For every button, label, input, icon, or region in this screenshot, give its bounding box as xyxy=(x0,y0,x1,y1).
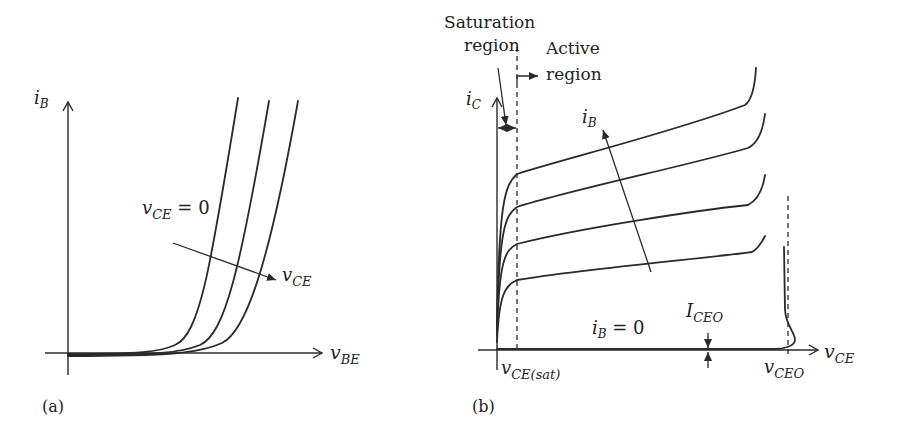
panel-b-label: (b) xyxy=(472,397,495,416)
active-region-label-line1: Active xyxy=(545,38,600,58)
bjt-characteristics-figure: iB vBE vCE = 0 vCE (a) Saturation xyxy=(0,0,897,421)
panel-b-output-characteristics: Saturation region Active region iC iB iB… xyxy=(444,12,855,416)
vce-arrow-label: vCE xyxy=(282,264,312,289)
ib-increase-arrow xyxy=(603,130,651,272)
vce-increase-arrow xyxy=(173,243,276,280)
panel-a-input-characteristics: iB vBE vCE = 0 vCE (a) xyxy=(34,87,360,416)
ib-curve-vce-0 xyxy=(68,98,238,354)
saturation-region-label-line2: region xyxy=(464,35,520,55)
ib-zero-label: iB = 0 xyxy=(592,317,645,341)
ic-curve-ib-4 xyxy=(497,68,756,325)
panel-a-label: (a) xyxy=(42,397,64,416)
ib-curve-vce-mid xyxy=(68,101,269,355)
iceo-label: ICEO xyxy=(685,300,724,325)
saturation-pointer-arrow xyxy=(498,68,506,125)
ic-curve-ib-0 xyxy=(497,247,795,349)
ib-axis-label: iB xyxy=(34,87,49,111)
saturation-region-label-line1: Saturation xyxy=(444,12,535,32)
active-region-arrow xyxy=(517,76,538,83)
vce-axis-label: vCE xyxy=(824,340,855,366)
ib-curve-vce-high xyxy=(68,101,298,356)
vce-zero-label: vCE = 0 xyxy=(142,197,210,222)
active-region-label-line2: region xyxy=(546,64,602,84)
vce-sat-label: vCE(sat) xyxy=(501,357,560,382)
ic-axis-label: iC xyxy=(466,88,481,112)
vbe-axis-label: vBE xyxy=(330,341,360,367)
ib-arrow-label: iB xyxy=(582,106,597,130)
vceo-label: vCEO xyxy=(764,356,805,381)
